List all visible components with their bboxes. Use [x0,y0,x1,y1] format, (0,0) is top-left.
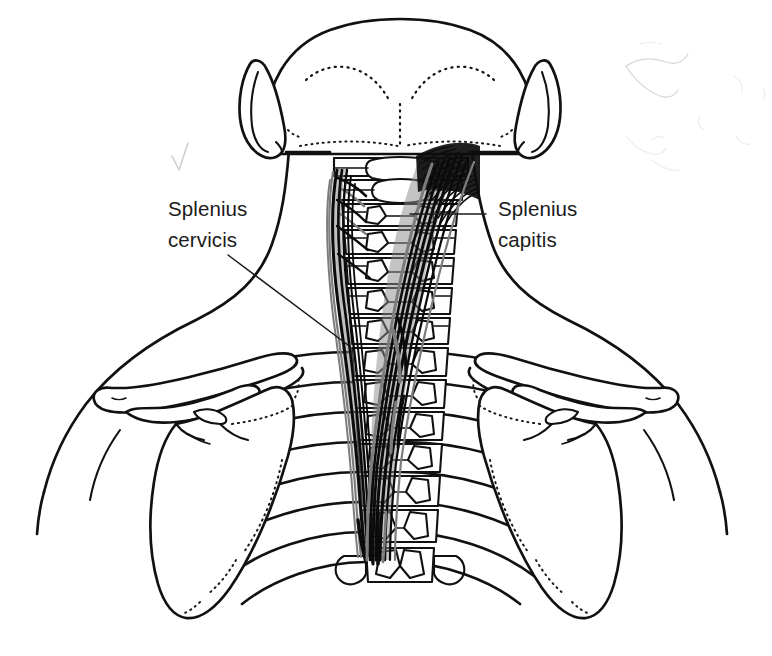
scapula-left [94,354,304,619]
label-splenius-cervicis: Splenius cervicis [168,197,247,251]
label-splenius-capitis: Splenius capitis [498,197,577,251]
anatomy-illustration: Splenius cervicis Splenius capitis [0,0,772,656]
label-cervicis-line1: Splenius [168,197,247,220]
scapula-right [469,354,679,619]
anatomy-figure: Splenius cervicis Splenius capitis [0,0,772,656]
skull-occiput [268,19,533,154]
scan-artifacts [626,43,765,171]
label-cervicis-line2: cervicis [168,228,237,251]
checkmark-artifact [172,143,188,170]
vertebra-t7 [336,548,465,584]
label-capitis-line2: capitis [498,228,557,251]
label-capitis-line1: Splenius [498,197,577,220]
